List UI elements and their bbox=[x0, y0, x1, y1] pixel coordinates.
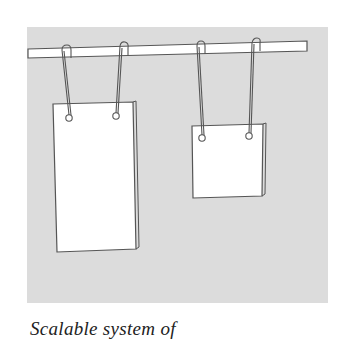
tall-pad bbox=[53, 101, 139, 252]
figure-caption: Scalable system of bbox=[30, 318, 176, 340]
hook-hole bbox=[199, 135, 205, 141]
hook-hole bbox=[66, 115, 72, 121]
hook-hole bbox=[246, 133, 252, 139]
short-pad bbox=[192, 123, 266, 198]
hook-hole bbox=[113, 113, 119, 119]
